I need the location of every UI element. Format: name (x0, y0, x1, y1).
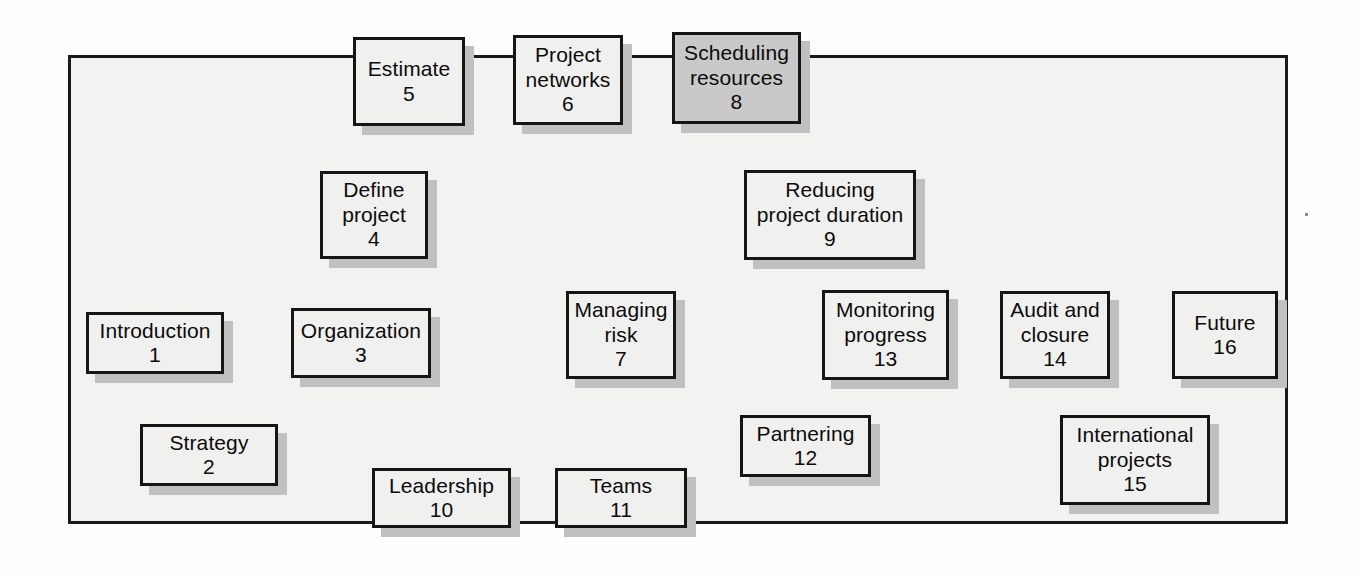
node-label: Partnering (753, 422, 859, 446)
node-number: 2 (165, 455, 252, 479)
node-1[interactable]: Introduction1 (86, 312, 224, 374)
node-10[interactable]: Leadership10 (372, 468, 511, 528)
node-13[interactable]: Monitoringprogress13 (822, 290, 949, 380)
diagram-canvas: Introduction1Strategy2Organization3Defin… (0, 0, 1361, 574)
node-label: Internationalprojects (1073, 423, 1198, 472)
node-number: 6 (522, 92, 615, 116)
node-label: Projectnetworks (522, 43, 615, 92)
node-15[interactable]: Internationalprojects15 (1060, 415, 1210, 505)
node-number: 10 (385, 498, 498, 522)
node-label: Future (1190, 311, 1259, 335)
scan-speck (1305, 213, 1308, 216)
node-number: 14 (1006, 347, 1104, 371)
node-number: 16 (1190, 335, 1259, 359)
node-label: Reducingproject duration (753, 178, 907, 227)
node-16[interactable]: Future16 (1172, 291, 1278, 379)
node-number: 8 (680, 90, 793, 114)
node-label: Estimate (364, 57, 455, 81)
node-9[interactable]: Reducingproject duration9 (744, 170, 916, 260)
node-label: Defineproject (338, 178, 410, 227)
node-8[interactable]: Schedulingresources8 (672, 32, 801, 124)
node-label: Leadership (385, 474, 498, 498)
node-5[interactable]: Estimate5 (353, 37, 465, 126)
node-2[interactable]: Strategy2 (140, 424, 278, 486)
node-number: 5 (364, 82, 455, 106)
node-number: 1 (96, 343, 215, 367)
node-12[interactable]: Partnering12 (740, 415, 871, 477)
node-11[interactable]: Teams11 (555, 468, 687, 528)
node-label: Managingrisk (570, 298, 671, 347)
node-label: Schedulingresources (680, 41, 793, 90)
node-number: 15 (1073, 472, 1198, 496)
node-number: 3 (297, 343, 425, 367)
node-number: 9 (753, 227, 907, 251)
node-label: Strategy (165, 431, 252, 455)
node-label: Organization (297, 319, 425, 343)
node-3[interactable]: Organization3 (291, 308, 431, 378)
node-number: 4 (338, 227, 410, 251)
node-6[interactable]: Projectnetworks6 (513, 35, 623, 125)
node-number: 7 (570, 347, 671, 371)
node-4[interactable]: Defineproject4 (320, 171, 428, 259)
node-number: 11 (586, 498, 656, 522)
node-7[interactable]: Managingrisk7 (566, 291, 676, 379)
node-number: 12 (753, 446, 859, 470)
node-label: Teams (586, 474, 656, 498)
node-14[interactable]: Audit andclosure14 (1000, 291, 1110, 379)
node-number: 13 (832, 347, 939, 371)
node-label: Audit andclosure (1006, 298, 1104, 347)
node-label: Introduction (96, 319, 215, 343)
node-label: Monitoringprogress (832, 298, 939, 347)
